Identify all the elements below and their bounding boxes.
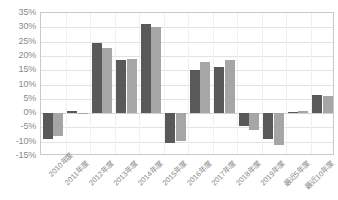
bar-group[interactable] (139, 13, 164, 154)
bar-group[interactable] (262, 13, 287, 154)
bar[interactable] (263, 113, 273, 139)
bar[interactable] (116, 60, 126, 113)
bar[interactable] (298, 111, 308, 113)
bar-group[interactable] (41, 13, 66, 154)
bar-chart: 35%30%25%20%15%10%5%0%-5%-10%-15% 2010年度… (0, 0, 338, 200)
bar[interactable] (190, 70, 200, 113)
plot-area (40, 12, 334, 155)
bar-group[interactable] (188, 13, 213, 154)
y-axis-tick-label: 10% (0, 79, 36, 89)
bar[interactable] (176, 113, 186, 141)
y-axis-tick-label: 35% (0, 7, 36, 17)
bar[interactable] (165, 113, 175, 143)
bar[interactable] (141, 24, 151, 113)
bar[interactable] (102, 48, 112, 113)
y-axis-tick-label: 30% (0, 21, 36, 31)
bar[interactable] (53, 113, 63, 136)
bar[interactable] (239, 113, 249, 126)
y-axis-tick-label: -10% (0, 136, 36, 146)
y-axis-tick-label: 15% (0, 64, 36, 74)
bar-group[interactable] (66, 13, 91, 154)
bar[interactable] (214, 67, 224, 113)
bar[interactable] (249, 113, 259, 130)
x-axis: 2010年度2011年度2012年度2013年度2014年度2015年度2016… (40, 156, 334, 200)
y-axis-tick-label: 5% (0, 93, 36, 103)
bar-group[interactable] (213, 13, 238, 154)
bars-layer (41, 13, 333, 154)
bar-group[interactable] (286, 13, 311, 154)
x-axis-tick-label: 2010年度 (45, 158, 66, 179)
y-axis-tick-label: 25% (0, 36, 36, 46)
bar[interactable] (274, 113, 284, 145)
y-axis: 35%30%25%20%15%10%5%0%-5%-10%-15% (0, 12, 38, 155)
bar[interactable] (323, 96, 333, 113)
y-axis-tick-label: -5% (0, 121, 36, 131)
bar-group[interactable] (90, 13, 115, 154)
bar[interactable] (288, 112, 298, 113)
bar[interactable] (225, 60, 235, 113)
y-axis-tick-label: -15% (0, 150, 36, 160)
bar[interactable] (43, 113, 53, 139)
bar[interactable] (92, 43, 102, 113)
bar[interactable] (312, 95, 322, 113)
bar[interactable] (151, 27, 161, 113)
bar[interactable] (67, 111, 77, 113)
bar-group[interactable] (237, 13, 262, 154)
bar-group[interactable] (311, 13, 336, 154)
bar[interactable] (78, 113, 88, 114)
y-axis-tick-label: 0% (0, 107, 36, 117)
bar-group[interactable] (115, 13, 140, 154)
y-axis-tick-label: 20% (0, 50, 36, 60)
bar[interactable] (200, 62, 210, 113)
bar-group[interactable] (164, 13, 189, 154)
bar[interactable] (127, 59, 137, 113)
